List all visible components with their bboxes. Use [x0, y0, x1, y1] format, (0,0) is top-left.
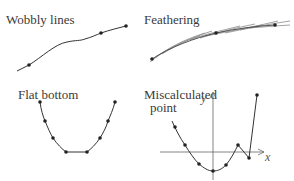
- wobbly-lines-plot: [17, 24, 128, 71]
- miscalculated-data-point: [255, 93, 259, 97]
- data-point: [273, 23, 277, 27]
- data-point: [150, 57, 154, 61]
- data-point: [214, 31, 218, 35]
- data-point: [99, 31, 103, 35]
- miscalculated-point-plot: [160, 92, 264, 180]
- data-point: [27, 63, 31, 67]
- diagram-canvas: [0, 0, 294, 181]
- flat-bottom-plot: [38, 100, 117, 154]
- data-point: [124, 24, 128, 28]
- feathering-plot: [150, 21, 290, 62]
